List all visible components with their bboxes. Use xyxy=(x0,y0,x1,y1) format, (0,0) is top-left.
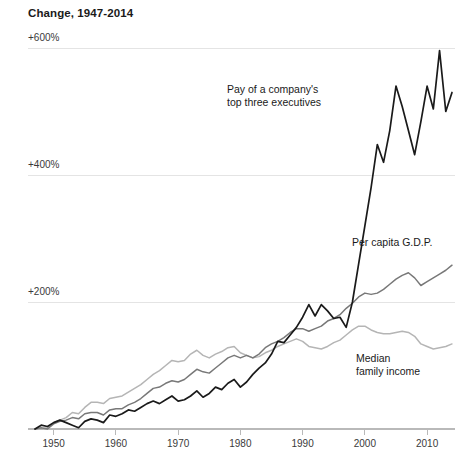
x-tick-label: 2010 xyxy=(416,438,439,449)
chart-container: Change, 1947-2014 +200%+400%+600% 195019… xyxy=(0,0,463,474)
series-line-median-family-income xyxy=(35,326,452,429)
x-tick-label: 1950 xyxy=(43,438,66,449)
x-tick-label: 1970 xyxy=(167,438,190,449)
annotation-gdp: Per capita G.D.P. xyxy=(352,236,432,248)
y-tick-label: +400% xyxy=(28,159,60,170)
x-tick-label: 1960 xyxy=(105,438,128,449)
x-axis-labels: 1950196019701980199020002010 xyxy=(43,438,439,449)
x-tick-label: 1990 xyxy=(292,438,315,449)
series-annotations: Pay of a company'stop three executivesPe… xyxy=(227,83,432,377)
y-tick-label: +600% xyxy=(28,32,60,43)
x-axis xyxy=(28,429,455,435)
y-tick-label: +200% xyxy=(28,286,60,297)
series-line-per-capita-g-d-p xyxy=(35,265,452,429)
annotation-exec-pay: Pay of a company'stop three executives xyxy=(227,83,321,108)
x-tick-label: 1980 xyxy=(229,438,252,449)
y-axis-labels: +200%+400%+600% xyxy=(28,32,60,297)
annotation-median-income: Medianfamily income xyxy=(356,352,420,377)
chart-plot-area: +200%+400%+600% 195019601970198019902000… xyxy=(0,0,463,474)
x-tick-label: 2000 xyxy=(354,438,377,449)
